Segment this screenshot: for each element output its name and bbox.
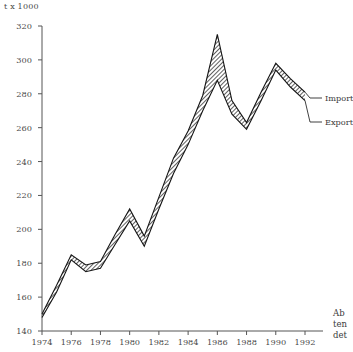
y-tick-label: 240 [6, 157, 32, 167]
x-tick-label: 1976 [56, 337, 86, 347]
side-note-line-3: det [333, 330, 347, 341]
y-tick-label: 160 [6, 292, 32, 302]
x-tick-label: 1978 [85, 337, 115, 347]
side-note-line-1: Ab [333, 308, 347, 319]
export-line [42, 70, 305, 317]
legend-leader-lines [305, 92, 322, 122]
side-note-line-2: ten [333, 319, 347, 330]
export-leader-line [305, 101, 322, 122]
x-tick-label: 1992 [290, 337, 320, 347]
legend-label-import: Import [325, 93, 353, 103]
y-tick-label: 220 [6, 190, 32, 200]
x-tick-label: 1990 [261, 337, 291, 347]
x-tick-label: 1988 [232, 337, 262, 347]
side-note-text: Ab ten det [333, 308, 347, 341]
x-tick-label: 1974 [27, 337, 57, 347]
x-tick-label: 1982 [144, 337, 174, 347]
import-leader-line [305, 92, 322, 98]
x-tick-label: 1984 [173, 337, 203, 347]
x-tick-label: 1980 [115, 337, 145, 347]
y-tick-label: 180 [6, 258, 32, 268]
legend-label-export: Export [325, 117, 353, 127]
y-tick-label: 200 [6, 224, 32, 234]
import-export-band [42, 34, 305, 317]
y-tick-label: 320 [6, 21, 32, 31]
y-tick-label: 140 [6, 326, 32, 336]
y-tick-label: 260 [6, 123, 32, 133]
y-tick-label: 280 [6, 89, 32, 99]
x-tick-label: 1986 [202, 337, 232, 347]
y-tick-label: 300 [6, 55, 32, 65]
